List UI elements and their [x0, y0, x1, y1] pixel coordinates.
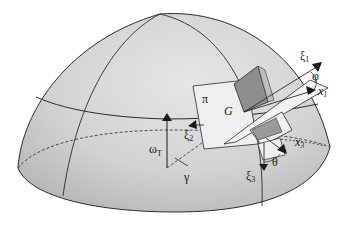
label-pi: π: [202, 92, 208, 106]
label-gamma: γ: [183, 170, 190, 184]
label-phi: φ: [312, 69, 319, 83]
label-xi1: ξ1: [300, 49, 309, 64]
label-x1: x1: [317, 84, 327, 99]
label-G: G: [224, 104, 233, 118]
label-theta: θ: [272, 155, 278, 169]
dome-diagram: ξ1 φ x1 π G ξ2 ωT γ x3 θ ξ3: [0, 0, 344, 225]
